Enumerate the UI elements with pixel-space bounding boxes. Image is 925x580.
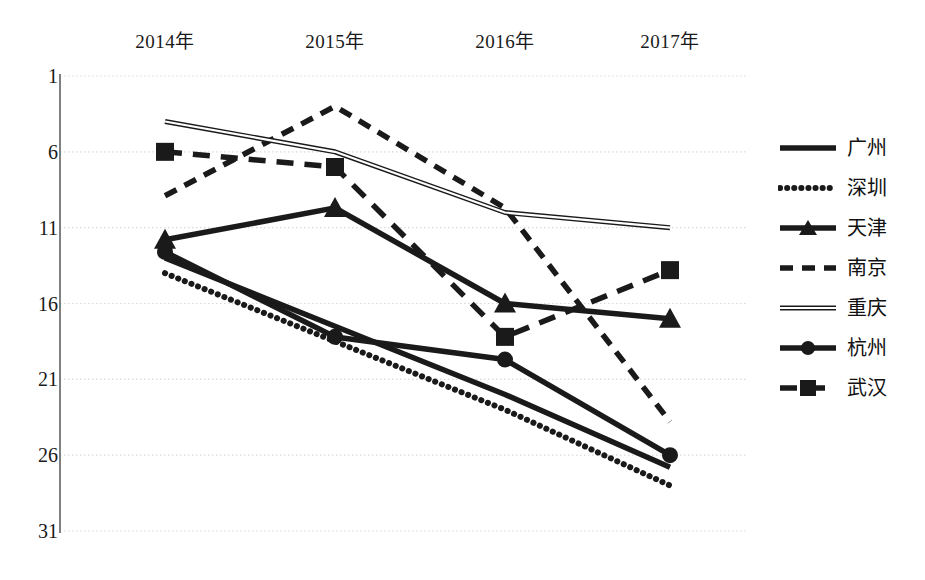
chart-legend: 广州深圳天津南京重庆杭州武汉	[778, 128, 918, 408]
legend-label: 武汉	[847, 378, 887, 398]
data-series-group	[154, 106, 681, 485]
legend-label: 深圳	[847, 178, 887, 198]
series-重庆	[165, 122, 670, 228]
legend-key-icon	[778, 178, 838, 198]
series-武汉	[156, 143, 679, 346]
legend-label: 天津	[847, 218, 887, 238]
legend-key-icon	[778, 258, 838, 278]
legend-key-icon	[778, 298, 838, 318]
legend-key-icon	[778, 338, 838, 358]
legend-item-深圳[interactable]: 深圳	[778, 168, 918, 208]
legend-item-天津[interactable]: 天津	[778, 208, 918, 248]
series-杭州	[157, 244, 678, 463]
legend-label: 广州	[847, 138, 887, 158]
legend-label: 重庆	[847, 298, 887, 318]
series-天津	[154, 197, 681, 328]
legend-item-南京[interactable]: 南京	[778, 248, 918, 288]
legend-item-重庆[interactable]: 重庆	[778, 288, 918, 328]
legend-key-icon	[778, 138, 838, 158]
legend-item-杭州[interactable]: 杭州	[778, 328, 918, 368]
legend-key-icon	[778, 378, 838, 398]
legend-item-广州[interactable]: 广州	[778, 128, 918, 168]
legend-item-武汉[interactable]: 武汉	[778, 368, 918, 408]
legend-key-icon	[778, 218, 838, 238]
legend-label: 杭州	[847, 338, 887, 358]
line-chart: 2014年2015年2016年2017年 161116212631 广州深圳天津…	[0, 0, 925, 580]
legend-label: 南京	[847, 258, 887, 278]
